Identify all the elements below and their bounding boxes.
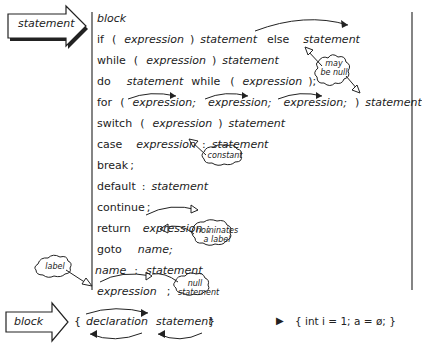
grammar-nonterminal: statement <box>200 33 257 46</box>
grammar-terminal: ( <box>112 33 116 46</box>
grammar-terminal: continue <box>97 201 145 214</box>
grammar-row: dostatementwhile(expression); <box>97 72 316 88</box>
grammar-terminal: : <box>134 264 138 277</box>
grammar-terminal: ( <box>134 54 138 67</box>
null-statement-line1: null <box>178 279 212 288</box>
grammar-terminal: ( <box>230 75 234 88</box>
may-be-null-line1: may <box>320 59 348 68</box>
grammar-nonterminal: expression; <box>283 96 346 109</box>
block-close-brace: } <box>208 315 215 328</box>
grammar-row: name:statement <box>95 261 203 277</box>
label-note: label <box>40 262 70 271</box>
grammar-terminal: switch <box>97 117 132 130</box>
grammar-nonterminal: statement <box>303 33 360 46</box>
grammar-row: returnexpression; <box>97 219 210 235</box>
may-be-null-line2: be null <box>320 68 348 77</box>
grammar-terminal: ; <box>147 201 151 214</box>
null-statement-note: null statement <box>178 279 212 297</box>
grammar-terminal: : <box>142 180 146 193</box>
statement-arrow-label: statement <box>18 17 75 30</box>
grammar-terminal: ); <box>308 75 316 88</box>
nominates-a-label-note: nominates a label <box>196 226 238 244</box>
grammar-nonterminal: statement <box>151 180 208 193</box>
grammar-nonterminal: expression <box>143 222 203 235</box>
grammar-nonterminal: expression <box>136 138 196 151</box>
grammar-nonterminal: statement <box>229 117 286 130</box>
null-statement-line2: statement <box>178 288 212 297</box>
block-arrow-label: block <box>14 315 43 328</box>
grammar-nonterminal: expression <box>243 75 303 88</box>
grammar-row: default:statement <box>97 177 208 193</box>
grammar-terminal: do <box>97 75 111 88</box>
constant-note: constant <box>206 151 244 160</box>
grammar-nonterminal: expression <box>124 33 184 46</box>
example-code: { int i = 1; a = ø; } <box>295 315 396 327</box>
grammar-nonterminal: block <box>97 12 126 25</box>
grammar-nonterminal: expression <box>152 117 212 130</box>
block-statement: statement <box>156 315 213 328</box>
grammar-terminal: if <box>97 33 104 46</box>
grammar-nonterminal: expression <box>97 285 157 298</box>
nominates-line2: a label <box>196 235 238 244</box>
grammar-terminal: ) <box>212 54 216 67</box>
grammar-nonterminal: statement <box>127 75 184 88</box>
grammar-terminal: default <box>97 180 136 193</box>
grammar-terminal: ) <box>190 33 194 46</box>
grammar-terminal: ( <box>140 117 144 130</box>
block-declaration: declaration <box>86 315 148 328</box>
grammar-terminal: case <box>97 138 122 151</box>
grammar-row: expression; <box>97 282 171 298</box>
grammar-terminal: : <box>202 138 206 151</box>
example-marker-icon: ▶ <box>276 315 284 326</box>
grammar-terminal: ; <box>130 159 134 172</box>
grammar-terminal: while <box>97 54 126 67</box>
grammar-terminal: while <box>191 75 220 88</box>
grammar-terminal: else <box>267 33 289 46</box>
grammar-nonterminal: statement <box>146 264 203 277</box>
grammar-row: break; <box>97 156 134 172</box>
grammar-terminal: ( <box>120 96 124 109</box>
grammar-terminal: ; <box>167 285 171 298</box>
grammar-nonterminal: expression; <box>208 96 271 109</box>
grammar-terminal: goto <box>97 243 122 256</box>
grammar-row: block <box>97 9 126 25</box>
grammar-row: for(expression;expression;expression;)st… <box>97 93 422 109</box>
grammar-terminal: break <box>97 159 128 172</box>
grammar-terminal: ) <box>218 117 222 130</box>
grammar-row: switch(expression)statement <box>97 114 285 130</box>
block-open-brace: { <box>74 315 81 328</box>
grammar-terminal: ) <box>355 96 359 109</box>
grammar-row: gotoname; <box>97 240 173 256</box>
grammar-nonterminal: expression; <box>132 96 195 109</box>
grammar-row: continue; <box>97 198 151 214</box>
grammar-terminal: return <box>97 222 131 235</box>
grammar-row: caseexpression:statement <box>97 135 268 151</box>
grammar-row: while(expression)statement <box>97 51 279 67</box>
grammar-nonterminal: statement <box>222 54 279 67</box>
grammar-terminal: for <box>97 96 112 109</box>
grammar-nonterminal: name; <box>138 243 173 256</box>
grammar-nonterminal: statement <box>212 138 269 151</box>
grammar-nonterminal: statement <box>365 96 422 109</box>
grammar-nonterminal: expression <box>146 54 206 67</box>
grammar-row: if(expression)statementelsestatement <box>97 30 360 46</box>
nominates-line1: nominates <box>196 226 238 235</box>
grammar-nonterminal: name <box>95 264 126 277</box>
may-be-null-note: may be null <box>320 59 348 77</box>
